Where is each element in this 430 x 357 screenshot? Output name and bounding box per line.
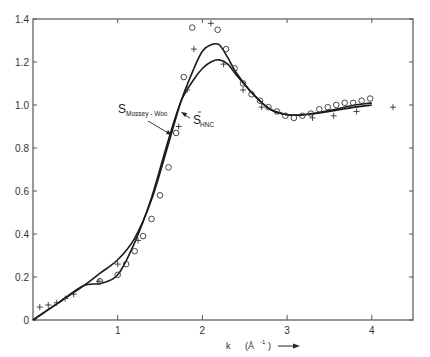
y-tick-label: 1.4 — [15, 14, 29, 25]
arrow-mw-line — [148, 121, 170, 134]
x-axis-ticks: 1234 — [115, 19, 375, 336]
circle-marker-icon — [367, 96, 373, 102]
chart: 00.20.40.60.81.01.21.4 1234 S Mossey - W… — [0, 0, 430, 357]
x-tick-label: 4 — [369, 325, 375, 336]
circle-marker-icon — [181, 74, 187, 80]
y-tick-label: 0.8 — [15, 143, 29, 154]
y-tick-label: 0.6 — [15, 186, 29, 197]
data-markers — [37, 20, 396, 310]
circle-marker-icon — [189, 25, 195, 31]
x-tick-label: 2 — [200, 325, 206, 336]
x-label-exp: -1 — [260, 339, 266, 345]
y-tick-label: 0.2 — [15, 272, 29, 283]
x-axis-label: k (Å -1 ) — [226, 339, 300, 351]
anno-mw-sub: Mossey - Woo — [126, 110, 168, 118]
circle-marker-icon — [132, 248, 138, 254]
x-label-close: ) — [268, 341, 271, 351]
arrow-right-icon — [293, 344, 300, 349]
circle-marker-icon — [215, 27, 221, 33]
curves — [33, 44, 372, 320]
curve-s-hnc — [33, 60, 372, 320]
annotation-hnc: S HNC — [181, 112, 214, 128]
circle-marker-icon — [166, 165, 172, 171]
x-label-k: k — [226, 341, 231, 351]
circle-marker-icon — [333, 102, 339, 108]
circle-marker-icon — [173, 130, 179, 136]
circle-marker-icon — [149, 216, 155, 222]
anno-mw-main: S — [118, 102, 126, 116]
circle-marker-icon — [325, 104, 331, 110]
annotation-mossey-woo: S Mossey - Woo — [118, 102, 172, 135]
x-tick-label: 3 — [284, 325, 290, 336]
y-tick-label: 0.4 — [15, 229, 29, 240]
circle-marker-icon — [359, 98, 365, 104]
x-label-unit: (Å — [245, 341, 254, 351]
y-tick-label: 1.0 — [15, 100, 29, 111]
y-tick-label: 0 — [23, 315, 29, 326]
curve-s-mossey-woo — [33, 44, 372, 320]
y-tick-label: 1.2 — [15, 57, 29, 68]
circle-marker-icon — [342, 100, 348, 106]
circle-marker-icon — [140, 233, 146, 239]
circle-marker-icon — [157, 193, 163, 199]
anno-hnc-sub: HNC — [200, 121, 214, 128]
x-tick-label: 1 — [115, 325, 121, 336]
circle-marker-icon — [316, 107, 322, 113]
circle-marker-icon — [223, 46, 229, 52]
